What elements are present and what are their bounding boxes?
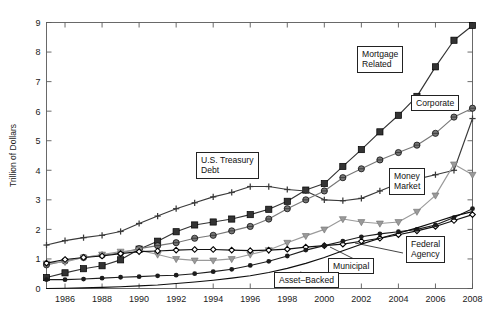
y-tick-label: 4 bbox=[35, 166, 40, 176]
annotation-money-market: Money Market bbox=[389, 168, 425, 195]
x-tick-label: 2002 bbox=[351, 294, 371, 304]
annotation-leader-line bbox=[355, 243, 403, 253]
y-tick-label: 6 bbox=[35, 107, 40, 117]
annotation-asset-backed: Asset–Backed bbox=[274, 272, 339, 288]
annotation-federal-agency: Federal Agency bbox=[406, 236, 445, 263]
annotation-mortgage-related: Mortgage Related bbox=[357, 46, 403, 73]
y-tick-label: 9 bbox=[35, 18, 40, 28]
y-tick-label: 8 bbox=[35, 47, 40, 57]
y-tick-label: 5 bbox=[35, 136, 40, 146]
y-tick-label: 7 bbox=[35, 77, 40, 87]
x-tick-label: 1990 bbox=[129, 294, 149, 304]
x-tick-label: 2004 bbox=[388, 294, 408, 304]
y-tick-label: 0 bbox=[35, 284, 40, 294]
chart-figure: 0123456789198619881990199219941996199820… bbox=[0, 0, 493, 325]
y-tick-label: 3 bbox=[35, 195, 40, 205]
annotation-corporate: Corporate bbox=[411, 95, 459, 111]
x-tick-label: 1992 bbox=[166, 294, 186, 304]
x-tick-label: 1994 bbox=[203, 294, 223, 304]
x-tick-label: 2006 bbox=[425, 294, 445, 304]
y-axis-title: Trillion of Dollars bbox=[8, 124, 18, 187]
x-tick-label: 1998 bbox=[277, 294, 297, 304]
x-tick-label: 1996 bbox=[240, 294, 260, 304]
y-tick-label: 2 bbox=[35, 225, 40, 235]
x-tick-label: 2000 bbox=[314, 294, 334, 304]
y-tick-label: 1 bbox=[35, 254, 40, 264]
x-tick-label: 1986 bbox=[55, 294, 75, 304]
x-tick-label: 2008 bbox=[462, 294, 482, 304]
x-tick-label: 1988 bbox=[92, 294, 112, 304]
annotation-us-treasury-debt: U.S. Treasury Debt bbox=[196, 152, 259, 179]
